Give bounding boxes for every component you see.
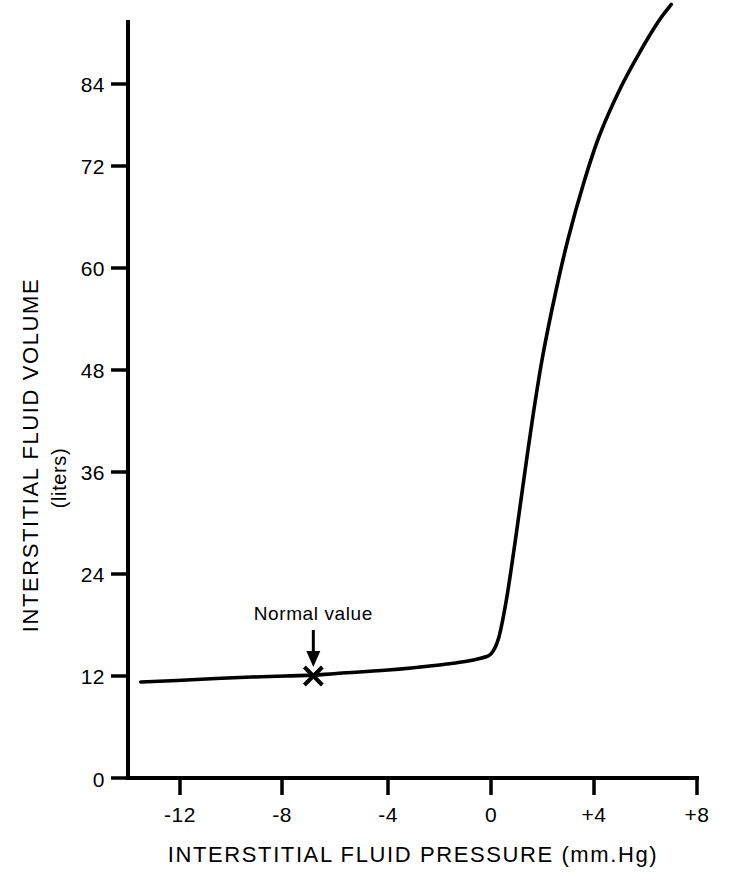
x-tick-label-minus-8: -8 — [272, 803, 292, 826]
y-tick-label-48: 48 — [81, 359, 105, 382]
x-tick-label-0: 0 — [485, 803, 497, 826]
normal-value-label: Normal value — [254, 603, 373, 624]
x-tick-label-plus-4: +4 — [582, 803, 607, 826]
y-tick-label-0: 0 — [93, 768, 105, 791]
y-tick-label-60: 60 — [81, 257, 105, 280]
y-tick-label-24: 24 — [81, 563, 105, 586]
y-tick-label-84: 84 — [81, 73, 105, 96]
x-tick-label-plus-8: +8 — [685, 803, 710, 826]
y-tick-label-72: 72 — [81, 155, 105, 178]
x-tick-label-minus-4: -4 — [378, 803, 398, 826]
y-tick-label-36: 36 — [81, 461, 105, 484]
y-tick-label-12: 12 — [81, 665, 105, 688]
y-axis-units: (liters) — [48, 448, 70, 508]
interstitial-fluid-chart: 84 72 60 48 36 24 12 0 -12 -8 -4 0 +4 +8… — [0, 0, 731, 880]
y-axis-title: INTERSTITIAL FLUID VOLUME — [18, 278, 43, 633]
x-tick-label-minus-12: -12 — [164, 803, 196, 826]
chart-background — [0, 0, 731, 880]
x-axis-title: INTERSTITIAL FLUID PRESSURE (mm.Hg) — [168, 842, 658, 867]
